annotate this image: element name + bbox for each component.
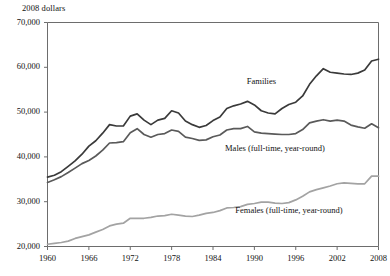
series-line-families — [48, 59, 379, 177]
plot-canvas — [0, 0, 390, 276]
income-trend-chart: 2008 dollars 70,00060,00050,00040,00030,… — [0, 0, 390, 276]
x-axis-tick-label: 1966 — [72, 253, 106, 263]
y-axis-tick-label: 20,000 — [2, 241, 40, 251]
x-axis-tick-label: 2008 — [362, 253, 390, 263]
x-axis-tick-label: 1972 — [113, 253, 147, 263]
x-axis-tick-label: 1978 — [155, 253, 189, 263]
series-annotation: Families — [247, 76, 276, 86]
y-axis-tick-label: 50,000 — [2, 106, 40, 116]
x-axis-tick-label: 2002 — [320, 253, 354, 263]
x-axis-tick-label: 1996 — [279, 253, 313, 263]
x-axis-tick-label: 1990 — [237, 253, 271, 263]
series-annotation: Females (full-time, year-round) — [235, 205, 342, 215]
y-axis-tick-label: 70,000 — [2, 17, 40, 27]
series-line-males — [48, 120, 379, 183]
x-axis-tick-label: 1960 — [31, 253, 65, 263]
x-axis-tick-label: 1984 — [196, 253, 230, 263]
y-axis-tick-label: 30,000 — [2, 196, 40, 206]
y-axis-tick-label: 60,000 — [2, 61, 40, 71]
series-annotation: Males (full-time, year-round) — [225, 143, 325, 153]
y-axis-tick-label: 40,000 — [2, 151, 40, 161]
